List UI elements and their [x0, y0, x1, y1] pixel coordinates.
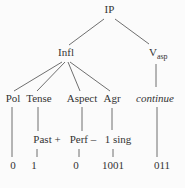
node-tense: Tense — [26, 93, 52, 104]
value-tense-past: Past + — [33, 134, 60, 145]
node-infl: Infl — [58, 47, 74, 58]
node-agr: Agr — [103, 93, 120, 104]
edge-ip-infl — [69, 19, 104, 45]
edge-ip-vasp — [115, 19, 149, 44]
code-pol: 0 — [10, 160, 16, 171]
edge-infl-tense — [37, 62, 65, 91]
node-verb-continue: continue — [136, 93, 174, 104]
value-agr-1sing: 1 sing — [105, 134, 132, 145]
value-aspect-perf: Perf – — [70, 134, 97, 145]
node-v-asp: Vasp — [149, 47, 168, 61]
code-tense: 1 — [31, 160, 37, 171]
node-ip: IP — [105, 4, 115, 15]
node-pol: Pol — [6, 93, 21, 104]
syntax-tree-diagram: IP Infl Vasp Pol Tense Aspect Agr contin… — [0, 0, 185, 188]
node-v-base: V — [149, 46, 157, 58]
code-agr: 1001 — [102, 160, 124, 171]
code-aspect: 0 — [73, 160, 79, 171]
edge-infl-aspect — [68, 62, 80, 91]
edge-infl-agr — [70, 62, 110, 91]
code-verb: 011 — [154, 160, 170, 171]
edge-infl-pol — [14, 62, 62, 91]
node-aspect: Aspect — [67, 93, 98, 104]
node-v-subscript: asp — [157, 52, 168, 61]
